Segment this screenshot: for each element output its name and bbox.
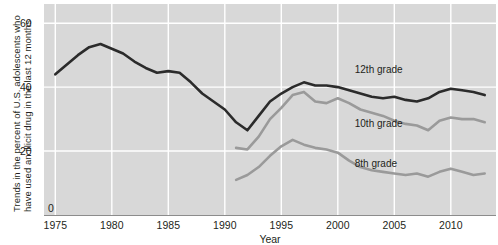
x-tick-label: 2000 bbox=[326, 219, 349, 231]
y-tick-label: 40 bbox=[20, 81, 32, 93]
series-label-10th-grade: 10th grade bbox=[355, 118, 403, 129]
chart-figure: Trends in the percent of U.S. adolescent… bbox=[0, 0, 498, 245]
x-tick-label: 1980 bbox=[100, 219, 123, 231]
y-tick-label: 60 bbox=[20, 17, 32, 29]
x-tick-label: 1985 bbox=[157, 219, 180, 231]
x-tick-label: 1995 bbox=[270, 219, 293, 231]
gridlines bbox=[44, 4, 496, 215]
x-axis-line bbox=[44, 215, 496, 216]
x-axis-title: Year bbox=[259, 233, 280, 245]
y-axis-title-line-1: Trends in the percent of U.S. adolescent… bbox=[11, 15, 22, 212]
y-axis-title: Trends in the percent of U.S. adolescent… bbox=[0, 0, 32, 215]
series-lines bbox=[55, 44, 484, 180]
x-tick-label: 1990 bbox=[213, 219, 236, 231]
series-label-12th-grade: 12th grade bbox=[355, 64, 403, 75]
y-tick-label: 20 bbox=[20, 145, 32, 157]
x-tick-label: 2005 bbox=[383, 219, 406, 231]
y-axis-title-line-2: have used an illicit drug in the last 12… bbox=[22, 20, 33, 212]
x-tick-label: 1975 bbox=[44, 219, 67, 231]
plot-area: 0204060 12th grade10th grade8th grade bbox=[44, 4, 496, 215]
x-tick-label: 2010 bbox=[439, 219, 462, 231]
plot-svg bbox=[44, 4, 496, 215]
y-tick-label: 0 bbox=[48, 202, 54, 214]
series-label-8th-grade: 8th grade bbox=[355, 158, 397, 169]
